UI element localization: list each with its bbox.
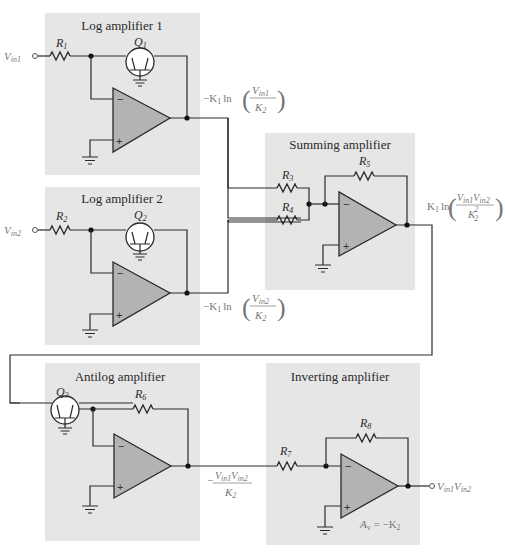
- svg-text:Vin1Vin2: Vin1Vin2: [457, 192, 490, 205]
- log2-output-expression: −K1ln ( Vin2 K2 ): [203, 292, 286, 323]
- svg-text:Vin1Vin2: Vin1Vin2: [215, 470, 248, 483]
- svg-text:−K1ln: −K1ln: [203, 300, 232, 314]
- vin2-terminal: [33, 228, 38, 233]
- svg-text:K2: K2: [224, 486, 236, 500]
- gain-label: Av = −K2: [359, 518, 401, 532]
- svg-text:+: +: [116, 309, 122, 321]
- vin2-label: Vin2: [4, 224, 21, 238]
- inverting-amplifier-title: Inverting amplifier: [291, 369, 390, 384]
- svg-text:+: +: [343, 240, 349, 252]
- vin1-terminal: [33, 54, 38, 59]
- svg-text:−: −: [118, 440, 124, 452]
- svg-text:+: +: [116, 135, 122, 147]
- svg-text:): ): [277, 293, 286, 322]
- svg-text:+: +: [344, 501, 350, 513]
- svg-text:): ): [277, 85, 286, 114]
- output-label: Vin1Vin2: [437, 480, 471, 494]
- output-terminal: [430, 484, 435, 489]
- svg-text:Vin2: Vin2: [252, 292, 269, 306]
- svg-text:(: (: [242, 293, 251, 322]
- log-amplifier-2-title: Log amplifier 2: [81, 191, 163, 206]
- svg-text:−K1ln: −K1ln: [203, 92, 232, 106]
- svg-text:K22: K22: [467, 205, 478, 223]
- vin1-label: Vin1: [4, 50, 21, 64]
- multiplier-circuit-diagram: Log amplifier 1 Log amplifier 2 Summing …: [0, 0, 505, 555]
- log1-output-expression: −K1ln ( Vin1 K2 ): [203, 84, 286, 115]
- svg-text:Vin1: Vin1: [252, 84, 269, 98]
- svg-text:K2: K2: [254, 309, 266, 323]
- summing-output-expression: K1ln ( Vin1Vin2 K22 ): [427, 192, 504, 223]
- svg-text:−: −: [343, 198, 349, 210]
- summing-amplifier-title: Summing amplifier: [289, 137, 391, 152]
- svg-text:−: −: [117, 93, 123, 105]
- log-amplifier-2-panel: [45, 187, 200, 345]
- log-amplifier-1-title: Log amplifier 1: [81, 18, 163, 33]
- svg-text:(: (: [448, 193, 457, 222]
- svg-text:K1ln: K1ln: [427, 200, 450, 214]
- svg-text:−: −: [345, 460, 351, 472]
- svg-text:(: (: [242, 85, 251, 114]
- svg-text:−: −: [117, 267, 123, 279]
- antilog-amplifier-title: Antilog amplifier: [75, 369, 166, 384]
- svg-text:−: −: [207, 474, 213, 486]
- antilog-output-expression: − Vin1Vin2 K2: [207, 470, 252, 500]
- svg-text:K2: K2: [254, 101, 266, 115]
- svg-text:): ): [495, 193, 504, 222]
- svg-text:+: +: [117, 481, 123, 493]
